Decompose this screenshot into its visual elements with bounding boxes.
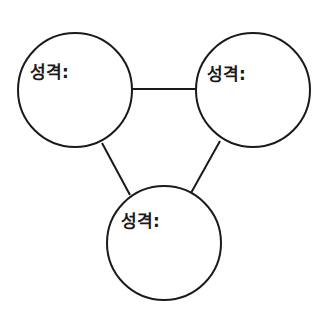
edge-top-right-to-bottom — [191, 141, 220, 193]
edge-top-left-to-bottom — [102, 143, 130, 195]
node-circle-top-right — [196, 33, 310, 147]
node-label-top-right: 성격: — [207, 64, 246, 84]
node-label-bottom: 성격: — [121, 211, 160, 231]
character-relationship-diagram — [0, 0, 329, 320]
node-circle-top-left — [18, 33, 132, 147]
node-label-top-left: 성격: — [30, 62, 69, 82]
node-circle-bottom — [107, 186, 221, 300]
